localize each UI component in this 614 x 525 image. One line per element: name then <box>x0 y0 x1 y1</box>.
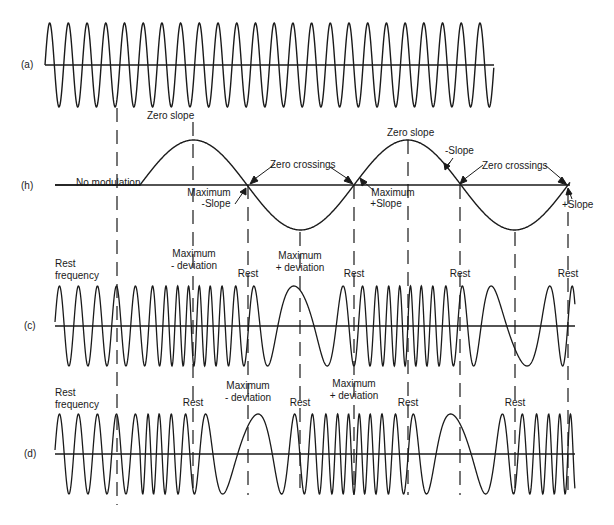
c-rest-frequency-line1: Rest <box>55 258 76 269</box>
panel-label-c: (c) <box>24 320 36 331</box>
d-max-neg-deviation-line1: Maximum <box>226 380 269 391</box>
c-rest-3: Rest <box>450 268 471 279</box>
panel-label-h: (h) <box>21 180 33 191</box>
annotation-zero-crossings-2: Zero crossings <box>482 160 548 171</box>
panel-a-carrier-wave <box>45 23 494 107</box>
c-max-neg-deviation-line1: Maximum <box>172 248 215 259</box>
c-max-pos-deviation-line2: + deviation <box>276 262 325 273</box>
c-rest-2: Rest <box>344 268 365 279</box>
d-rest-4: Rest <box>505 397 526 408</box>
annotation-max-pos-slope-line2: +Slope <box>370 198 401 209</box>
d-rest-frequency-line2: frequency <box>55 399 99 410</box>
panel-label-a: (a) <box>21 59 33 70</box>
panel-d-pm-wave <box>55 414 575 494</box>
d-max-pos-deviation-line2: + deviation <box>330 390 379 401</box>
c-rest-4: Rest <box>558 268 579 279</box>
c-rest-1: Rest <box>238 268 259 279</box>
d-rest-1: Rest <box>183 397 204 408</box>
panel-label-d: (d) <box>24 448 36 459</box>
annotation-neg-slope: -Slope <box>445 145 474 156</box>
d-max-pos-deviation-line1: Maximum <box>332 378 375 389</box>
annotation-max-neg-slope-line2: -Slope <box>202 198 231 209</box>
c-max-pos-deviation-line1: Maximum <box>278 250 321 261</box>
d-rest-frequency-line1: Rest <box>55 387 76 398</box>
panel-c-fm-wave <box>55 286 575 366</box>
d-max-neg-deviation-line2: - deviation <box>225 392 271 403</box>
annotation-max-neg-slope-line1: Maximum <box>187 187 230 198</box>
annotation-zero-slope-1: Zero slope <box>147 110 194 121</box>
d-rest-3: Rest <box>398 397 419 408</box>
annotation-pos-slope: +Slope <box>562 199 593 210</box>
annotation-max-pos-slope-line1: Maximum <box>371 187 414 198</box>
c-rest-frequency-line2: frequency <box>55 270 99 281</box>
annotation-no-modulation: No modulation <box>76 177 140 188</box>
annotation-zero-slope-2: Zero slope <box>387 127 434 138</box>
annotation-zero-crossings-1: Zero crossings <box>270 159 336 170</box>
d-rest-2: Rest <box>290 397 311 408</box>
c-max-neg-deviation-line2: - deviation <box>171 260 217 271</box>
